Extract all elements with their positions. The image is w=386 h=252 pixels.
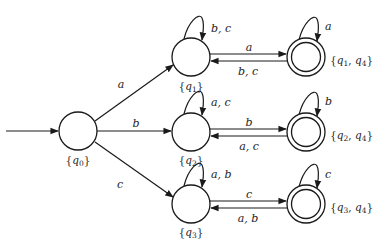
label-q24-q2: a, c — [239, 140, 259, 153]
label-loop-q34: c — [325, 168, 331, 181]
loop-q1 — [184, 16, 204, 40]
label-q3-q34: c — [246, 188, 252, 201]
loop-q2 — [184, 91, 204, 115]
set-label-q0: {q0} — [66, 154, 91, 168]
loop-q34 — [299, 164, 319, 188]
label-q14-q1: b, c — [238, 65, 258, 78]
state-q3 — [172, 185, 210, 223]
label-loop-q1: b, c — [211, 22, 231, 35]
label-q34-q3: a, b — [238, 212, 259, 225]
state-q2 — [172, 113, 210, 151]
label-q0-q3: c — [117, 178, 123, 191]
dfa-diagram: a b c b, c a b, c a a, c b a, c b a, b c… — [0, 0, 386, 252]
state-q3-q4 — [287, 185, 325, 223]
label-q1-q14: a — [246, 41, 253, 54]
label-q0-q1: a — [118, 78, 125, 91]
label-q0-q2: b — [132, 117, 139, 130]
label-loop-q2: a, c — [211, 96, 231, 109]
label-loop-q24: b — [325, 95, 332, 108]
label-q2-q24: b — [245, 116, 252, 129]
edge-q0-q3 — [95, 142, 173, 197]
set-label-q2-q4: {q2, q4} — [330, 129, 373, 143]
state-q2-q4 — [287, 113, 325, 151]
edge-q0-q1 — [95, 65, 173, 121]
label-loop-q14: a — [325, 20, 332, 33]
set-label-q1: {q1} — [179, 80, 204, 94]
loop-q24 — [299, 92, 319, 116]
set-label-q2: {q2} — [179, 154, 204, 168]
set-label-q3-q4: {q3, q4} — [330, 201, 373, 215]
state-q1 — [172, 38, 210, 76]
label-loop-q3: a, b — [211, 168, 232, 181]
set-label-q1-q4: {q1, q4} — [330, 54, 373, 68]
state-q0 — [59, 112, 97, 150]
loop-q14 — [299, 17, 319, 41]
state-q1-q4 — [287, 38, 325, 76]
set-label-q3: {q3} — [179, 226, 204, 240]
